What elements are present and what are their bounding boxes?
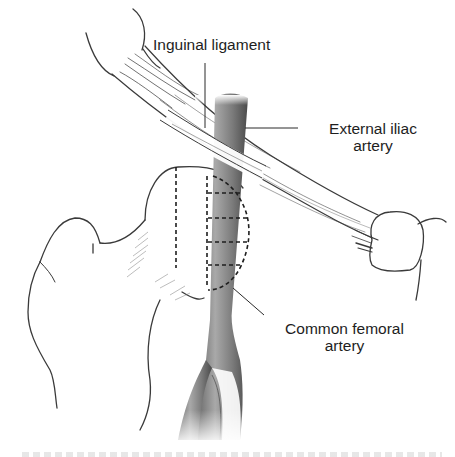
label-common-femoral-line2: artery xyxy=(262,337,427,354)
label-inguinal-ligament: Inguinal ligament xyxy=(153,36,270,53)
anatomy-diagram xyxy=(0,0,455,457)
ligament-overlay xyxy=(160,110,266,182)
figure-caption-cutoff xyxy=(0,452,455,457)
label-external-iliac-line1: External iliac xyxy=(303,120,443,137)
label-external-iliac-artery: External iliac artery xyxy=(303,120,443,154)
caption-glyph-tops xyxy=(22,452,442,457)
pubic-tubercle xyxy=(352,212,446,300)
label-common-femoral-artery: Common femoral artery xyxy=(262,320,427,354)
label-common-femoral-line1: Common femoral xyxy=(262,320,427,337)
neck-hatching xyxy=(127,232,190,300)
label-external-iliac-line2: artery xyxy=(303,137,443,154)
pelvis-outline xyxy=(86,9,160,76)
